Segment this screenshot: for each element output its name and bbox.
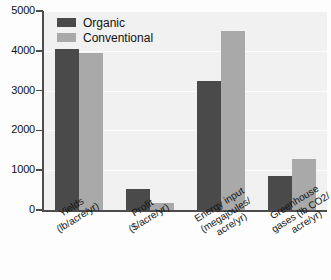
chart-figure: 010002000300040005000 Yields(lb/acre/yr)… <box>0 0 331 280</box>
bar-conventional-2 <box>221 31 245 210</box>
y-axis-line <box>42 11 44 211</box>
y-tick-mark-4000 <box>36 50 43 52</box>
y-tick-mark-2000 <box>36 130 43 132</box>
y-tick-label-4000: 4000 <box>0 45 35 56</box>
gridline-4000 <box>43 51 327 52</box>
y-tick-label-5000: 5000 <box>0 5 35 16</box>
legend-label-conventional: Conventional <box>83 32 153 44</box>
chart-legend: Organic Conventional <box>57 16 153 46</box>
y-tick-mark-1000 <box>36 169 43 171</box>
legend-label-organic: Organic <box>83 17 125 29</box>
y-tick-label-2000: 2000 <box>0 124 35 135</box>
y-tick-label-3000: 3000 <box>0 85 35 96</box>
y-tick-label-1000: 1000 <box>0 164 35 175</box>
legend-item-conventional: Conventional <box>57 31 153 44</box>
y-tick-mark-5000 <box>36 10 43 12</box>
bar-organic-0 <box>55 49 79 210</box>
gridline-5000 <box>43 11 327 12</box>
bar-organic-2 <box>197 81 221 210</box>
legend-swatch-conventional <box>57 33 76 42</box>
y-tick-label-0: 0 <box>0 204 35 215</box>
legend-swatch-organic <box>57 18 76 27</box>
legend-item-organic: Organic <box>57 16 153 29</box>
y-tick-mark-3000 <box>36 90 43 92</box>
bar-conventional-0 <box>79 53 103 210</box>
